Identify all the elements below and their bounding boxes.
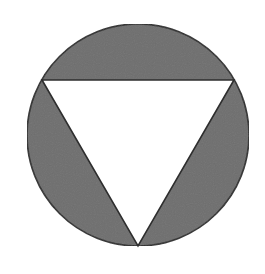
diagram-canvas bbox=[0, 0, 265, 274]
circle-triangle-diagram bbox=[0, 0, 265, 274]
